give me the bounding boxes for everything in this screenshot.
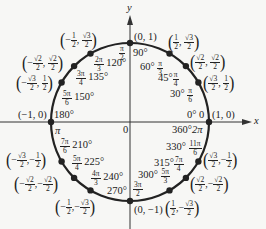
unit-circle-diagram: y x 0 0° 0 (1, 0) 360°2π (0, 1) π2 90° 6… [0,0,266,229]
x-axis-arrow-icon [242,119,252,125]
coord-90: (0, 1) [134,32,157,43]
coord-135: (−√22, √22) [22,55,63,71]
coord-120: (−12, √32) [60,32,97,48]
coord-180: (−1, 0) [18,110,47,121]
coord-30: (√32, 12) [203,75,234,91]
coord-225: (−√22,−√22) [14,176,58,192]
label-180-rad: π [55,126,60,137]
coord-60: (12, √32) [168,34,199,50]
coord-240: (−12,−√32) [55,199,95,215]
coord-300: (12,−√32) [165,200,199,216]
coord-45: (√22, √22) [190,54,225,70]
coord-315: (√22,−√22) [190,176,229,192]
coord-150: (−√32, 12) [16,75,53,91]
coord-270: (0, −1) [134,205,163,216]
y-axis-arrow-icon [127,15,133,25]
label-210: 7π6 210° [60,138,92,154]
label-135: 3π4 135° [76,70,108,86]
label-180-deg: 180° [54,110,74,121]
label-240: 4π3 240° [91,170,123,186]
label-270-deg: 270° [107,186,127,197]
coord-330: (√32,−12) [203,152,237,168]
label-30: 30° π6 [170,87,193,103]
label-45: 45°π4 [158,71,179,87]
label-0-deg: 0° 0 [187,110,204,121]
coord-0: (1, 0) [212,110,235,121]
label-90-deg: 90° [133,48,148,59]
origin-label: 0 [123,125,128,136]
label-330: 330° 11π6 [166,140,202,156]
label-150: 5π6 150° [62,90,94,106]
label-315: 315°7π4 [154,156,184,172]
y-axis-label: y [127,3,132,14]
label-360-deg: 360°2π [172,125,202,136]
coord-210: (−√32,−12) [6,152,46,168]
x-axis-label: x [254,116,259,127]
